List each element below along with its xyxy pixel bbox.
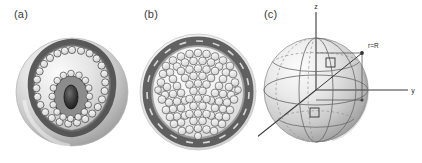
panel-a: (a) bbox=[0, 0, 141, 163]
figure-container: (a) bbox=[0, 0, 422, 163]
panel-c-graphic: z y x r=R bbox=[258, 0, 422, 163]
panel-a-core bbox=[64, 85, 78, 109]
panel-b: (b) bbox=[132, 0, 264, 163]
panel-a-graphic bbox=[0, 0, 141, 163]
z-axis-label: z bbox=[314, 3, 318, 10]
surface-point bbox=[360, 51, 364, 55]
y-axis-label: y bbox=[411, 87, 415, 95]
panel-b-graphic bbox=[132, 0, 264, 163]
projection-point bbox=[360, 98, 363, 101]
panel-c: (c) z y bbox=[258, 0, 422, 163]
radius-label: r=R bbox=[368, 42, 379, 49]
